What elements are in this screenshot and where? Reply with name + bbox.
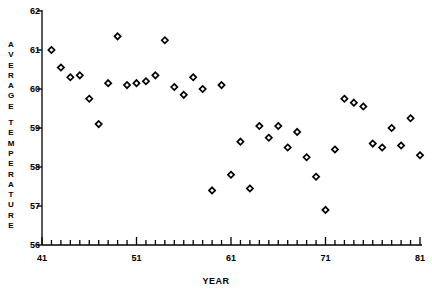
data-point [143, 78, 149, 84]
data-point [218, 82, 224, 88]
data-point [237, 139, 243, 145]
data-point [124, 82, 130, 88]
x-axis-ticks [42, 237, 420, 245]
data-point [313, 174, 319, 180]
data-point [86, 96, 92, 102]
data-point [266, 135, 272, 141]
data-point [332, 146, 338, 152]
data-point [181, 92, 187, 98]
data-point [407, 115, 413, 121]
data-point [256, 123, 262, 129]
data-point [351, 100, 357, 106]
data-point [115, 33, 121, 39]
data-point [58, 64, 64, 70]
data-point [341, 96, 347, 102]
data-point [48, 47, 54, 53]
data-point [200, 86, 206, 92]
data-point [171, 84, 177, 90]
data-point [398, 142, 404, 148]
data-point [152, 72, 158, 78]
data-point [379, 144, 385, 150]
data-point [190, 74, 196, 80]
data-point [77, 72, 83, 78]
data-point-markers [48, 33, 423, 213]
data-point [162, 37, 168, 43]
data-point [275, 123, 281, 129]
data-point [228, 172, 234, 178]
data-point [96, 121, 102, 127]
data-point [294, 129, 300, 135]
data-point [67, 74, 73, 80]
data-point [370, 141, 376, 147]
y-axis-ticks [37, 11, 42, 245]
data-point [389, 125, 395, 131]
chart-figure: AVERAGETEMPERATURE 56575859606162 415161… [0, 0, 432, 296]
data-point [417, 152, 423, 158]
data-point [360, 103, 366, 109]
data-point [247, 185, 253, 191]
scatter-plot-canvas [0, 0, 432, 296]
data-point [304, 154, 310, 160]
data-point [285, 144, 291, 150]
data-point [322, 207, 328, 213]
data-point [209, 187, 215, 193]
data-point [105, 80, 111, 86]
x-axis-title: YEAR [0, 276, 432, 286]
data-point [133, 80, 139, 86]
